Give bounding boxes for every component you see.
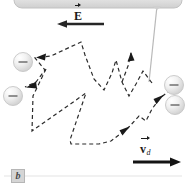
path-arrowhead-lower-right bbox=[120, 126, 131, 135]
path-arrowhead-branch-top bbox=[128, 52, 135, 62]
ion-sphere-right-lower bbox=[166, 96, 185, 115]
ion-sphere-left-lower bbox=[4, 87, 23, 106]
drift-velocity-symbol: v bbox=[140, 143, 146, 155]
lead-wire bbox=[149, 6, 157, 82]
electric-field-symbol: E bbox=[74, 10, 82, 22]
electric-field-vector-label: E bbox=[74, 3, 82, 23]
drift-velocity-arrow bbox=[133, 158, 181, 167]
vector-arrow-overbar-E bbox=[74, 3, 82, 8]
path-arrowhead-upper-right bbox=[154, 95, 165, 104]
ion-sphere-right-upper bbox=[165, 76, 184, 95]
electron-random-walk-path-lower bbox=[32, 69, 168, 144]
electron-random-walk-path bbox=[25, 42, 152, 96]
vector-arrow-overbar-v bbox=[140, 136, 151, 141]
drift-velocity-vector-label: vd bbox=[140, 136, 151, 157]
ion-sphere-left-upper bbox=[14, 53, 33, 72]
electron-drift-figure: E vd b bbox=[0, 0, 186, 189]
figure-canvas bbox=[0, 0, 186, 189]
path-arrowhead-mid-left bbox=[26, 82, 37, 89]
panel-tag-b: b bbox=[11, 169, 25, 183]
drift-velocity-subscript: d bbox=[147, 149, 151, 157]
path-arrowhead-upper-left bbox=[36, 54, 46, 61]
